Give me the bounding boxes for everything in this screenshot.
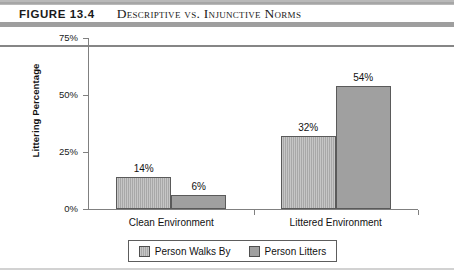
x-axis-tick-mark — [254, 210, 255, 215]
figure-title: Descriptive vs. Injunctive Norms — [117, 6, 302, 22]
bar-person-walks-by-littered-environment — [281, 136, 336, 209]
x-axis-category-label: Littered Environment — [246, 217, 426, 228]
bar-value-label: 32% — [281, 122, 336, 133]
figure-bottom-rule — [0, 268, 454, 270]
figure-container: FIGURE 13.4 Descriptive vs. Injunctive N… — [0, 0, 454, 275]
y-axis-title: Littering Percentage — [30, 46, 41, 176]
bar-value-label: 6% — [171, 181, 226, 192]
x-axis-category-label: Clean Environment — [81, 217, 261, 228]
x-axis-line — [88, 209, 418, 210]
figure-number: FIGURE 13.4 — [19, 8, 95, 20]
y-axis-tick-label: 0% — [44, 204, 78, 214]
y-axis-tick-label: 25% — [44, 147, 78, 157]
legend-label: Person Walks By — [155, 246, 231, 257]
legend-label: Person Litters — [265, 246, 327, 257]
legend-item-person-walks-by: Person Walks By — [139, 246, 231, 257]
x-axis-tick-mark — [418, 210, 419, 215]
legend-item-person-litters: Person Litters — [249, 246, 327, 257]
bars-layer — [89, 38, 418, 209]
legend-swatch-icon — [139, 246, 150, 257]
y-axis-tick-label: 75% — [44, 33, 78, 43]
bar-value-label: 54% — [336, 72, 391, 83]
chart-legend: Person Walks ByPerson Litters — [128, 240, 337, 262]
header-top-band-inner — [0, 2, 454, 4]
y-axis-tick-labels: 0%25%50%75% — [44, 27, 78, 217]
chart-plot-area: Littering Percentage 0%25%50%75% Clean E… — [0, 27, 454, 267]
legend-swatch-icon — [249, 246, 260, 257]
figure-caption: FIGURE 13.4 Descriptive vs. Injunctive N… — [0, 5, 454, 22]
bar-person-walks-by-clean-environment — [116, 177, 171, 209]
bar-value-label: 14% — [116, 163, 171, 174]
bar-person-litters-clean-environment — [171, 195, 226, 209]
bar-person-litters-littered-environment — [336, 86, 391, 209]
y-axis-tick-label: 50% — [44, 90, 78, 100]
